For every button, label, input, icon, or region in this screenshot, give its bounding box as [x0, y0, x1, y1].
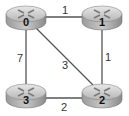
node-label: 2: [99, 94, 105, 106]
edge-weight-0-1: 1: [62, 4, 68, 16]
node-label: 1: [99, 16, 105, 28]
edge-weight-0-2: 3: [62, 59, 68, 71]
node-label: 3: [23, 94, 29, 106]
edge-weight-1-2: 1: [105, 51, 111, 63]
router-node-1: 1: [82, 6, 122, 30]
router-node-0: 0: [6, 6, 46, 30]
router-node-3: 3: [6, 84, 46, 108]
edge-weight-3-2: 2: [61, 101, 67, 113]
edge-weight-0-3: 7: [17, 52, 23, 64]
edge-0-2: [30, 22, 98, 90]
node-label: 0: [23, 16, 29, 28]
network-diagram: 1 1 3 7 2 0 1 2 3: [0, 0, 129, 116]
router-node-2: 2: [82, 84, 122, 108]
